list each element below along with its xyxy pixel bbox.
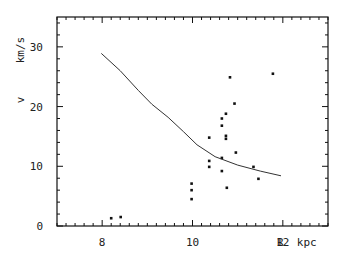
data-point [221,124,224,127]
data-point [119,216,122,219]
x-tick-label: 8 [99,236,106,249]
x-axis-label: R kpc [277,236,317,249]
data-point [208,166,211,169]
data-point [229,76,232,79]
data-point [226,186,229,189]
data-point [190,198,193,201]
data-point [221,117,224,120]
data-point [252,166,255,169]
y-axis-units-label: km/s [14,37,27,64]
data-point [110,217,113,220]
y-tick-label: 30 [30,41,43,54]
data-point [190,189,193,192]
data-point [257,178,260,181]
data-point [208,160,211,163]
y-tick-label: 0 [36,220,43,233]
data-point [208,136,211,139]
model-curve [101,53,281,175]
y-axis-label: v [14,96,27,103]
data-point [235,151,238,154]
data-point [233,102,236,105]
data-point [225,135,228,138]
y-tick-label: 20 [30,101,43,114]
data-point [225,112,228,115]
data-point [272,72,275,75]
data-point [190,182,193,185]
y-tick-label: 10 [30,160,43,173]
plot-frame [57,17,328,226]
chart: 810120102030km/sv [0,0,348,268]
data-point [225,138,228,141]
x-tick-label: 10 [186,236,199,249]
data-point [221,170,224,173]
